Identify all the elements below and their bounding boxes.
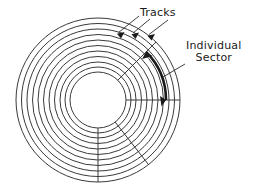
- disk-diagram: Tracks Individual Sector: [0, 0, 255, 194]
- tracks-label-text: Tracks: [140, 6, 176, 19]
- individual-sector-label-line2: Sector: [186, 52, 242, 64]
- tracks-leader-line: [149, 20, 168, 35]
- disk-hub: [70, 72, 126, 128]
- disk-platter-graphic: [0, 0, 255, 194]
- tracks-label: Tracks: [140, 7, 176, 19]
- individual-sector-label: Individual Sector: [186, 40, 242, 64]
